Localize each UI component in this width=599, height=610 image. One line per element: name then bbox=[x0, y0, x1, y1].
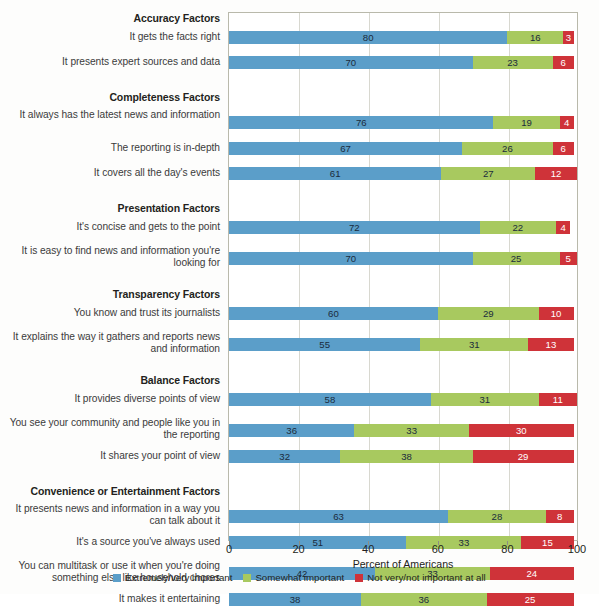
chart-row: It gets the facts right80163 bbox=[0, 30, 599, 55]
bar-segment: 19 bbox=[493, 116, 559, 129]
bar-segment: 6 bbox=[553, 142, 574, 155]
bar-segment: 29 bbox=[438, 307, 539, 320]
bar-segment: 16 bbox=[507, 31, 563, 44]
bar-segment: 33 bbox=[354, 424, 469, 437]
bar-segment: 12 bbox=[535, 167, 577, 180]
x-tick-label: 40 bbox=[362, 543, 374, 555]
bar-segment: 22 bbox=[480, 221, 557, 234]
bar-segment: 8 bbox=[546, 510, 574, 523]
bar-segment: 61 bbox=[229, 167, 441, 180]
legend-item[interactable]: Somewhat important bbox=[243, 572, 344, 583]
x-tick-label: 20 bbox=[292, 543, 304, 555]
bar-track: 553113 bbox=[229, 338, 577, 351]
row-label: It always has the latest news and inform… bbox=[2, 109, 220, 121]
row-label: It explains the way it gathers and repor… bbox=[2, 331, 220, 356]
group-header: Balance Factors bbox=[2, 374, 220, 386]
legend-item[interactable]: Extremely/very important bbox=[113, 572, 232, 583]
bar-track: 76194 bbox=[229, 116, 577, 129]
legend-item[interactable]: Not very/not important at all bbox=[355, 572, 485, 583]
row-label: The reporting is in-depth bbox=[2, 142, 220, 154]
bar-track: 363330 bbox=[229, 424, 577, 437]
chart-row: You see your community and people like y… bbox=[0, 417, 599, 449]
row-label: It shares your point of view bbox=[2, 450, 220, 462]
group-header: Completeness Factors bbox=[2, 91, 220, 103]
bar-track: 72224 bbox=[229, 221, 577, 234]
row-label: It covers all the day's events bbox=[2, 167, 220, 179]
bar-segment: 4 bbox=[560, 116, 574, 129]
bar-track: 70255 bbox=[229, 252, 577, 265]
row-label: You see your community and people like y… bbox=[2, 417, 220, 442]
bar-segment: 28 bbox=[448, 510, 545, 523]
bar-segment: 25 bbox=[487, 593, 574, 606]
chart-row: It presents expert sources and data70236 bbox=[0, 55, 599, 80]
bar-segment: 30 bbox=[469, 424, 573, 437]
chart-row: The reporting is in-depth67266 bbox=[0, 141, 599, 166]
bar-segment: 31 bbox=[431, 393, 539, 406]
bar-segment: 29 bbox=[473, 450, 574, 463]
bar-segment: 38 bbox=[229, 593, 361, 606]
x-tick-label: 100 bbox=[568, 543, 586, 555]
bar-segment: 70 bbox=[229, 252, 473, 265]
bar-segment: 6 bbox=[553, 56, 574, 69]
bar-track: 583111 bbox=[229, 393, 577, 406]
bar-track: 70236 bbox=[229, 56, 577, 69]
x-tick-label: 60 bbox=[432, 543, 444, 555]
group-header: Convenience or Entertainment Factors bbox=[2, 485, 220, 497]
row-label: It presents expert sources and data bbox=[2, 56, 220, 68]
legend-swatch bbox=[113, 574, 121, 582]
bar-segment: 67 bbox=[229, 142, 462, 155]
chart-row: It explains the way it gathers and repor… bbox=[0, 331, 599, 363]
chart-row: It presents news and information in a wa… bbox=[0, 503, 599, 535]
bar-segment: 58 bbox=[229, 393, 431, 406]
bar-segment: 60 bbox=[229, 307, 438, 320]
chart-row: You know and trust its journalists602910 bbox=[0, 306, 599, 331]
bar-track: 80163 bbox=[229, 31, 577, 44]
bar-segment: 32 bbox=[229, 450, 340, 463]
legend-swatch bbox=[355, 574, 363, 582]
bar-track: 383625 bbox=[229, 593, 577, 606]
chart-row: It's concise and gets to the point72224 bbox=[0, 220, 599, 245]
group-header: Presentation Factors bbox=[2, 202, 220, 214]
chart-legend: Extremely/very importantSomewhat importa… bbox=[0, 572, 599, 583]
bar-segment: 4 bbox=[556, 221, 570, 234]
bar-segment: 76 bbox=[229, 116, 493, 129]
bar-segment: 13 bbox=[528, 338, 573, 351]
bar-track: 612712 bbox=[229, 167, 577, 180]
row-label: It makes it entertaining bbox=[2, 593, 220, 605]
group-header: Transparency Factors bbox=[2, 288, 220, 300]
bar-segment: 63 bbox=[229, 510, 448, 523]
bar-track: 63288 bbox=[229, 510, 577, 523]
bar-segment: 80 bbox=[229, 31, 507, 44]
row-label: It provides diverse points of view bbox=[2, 393, 220, 405]
x-tick-label: 80 bbox=[501, 543, 513, 555]
bar-segment: 36 bbox=[229, 424, 354, 437]
chart-row: It always has the latest news and inform… bbox=[0, 109, 599, 141]
row-label: It presents news and information in a wa… bbox=[2, 503, 220, 528]
chart-row: It provides diverse points of view583111 bbox=[0, 392, 599, 417]
bar-segment: 26 bbox=[462, 142, 552, 155]
bar-segment: 5 bbox=[560, 252, 577, 265]
group-header: Accuracy Factors bbox=[2, 12, 220, 24]
bar-segment: 3 bbox=[563, 31, 573, 44]
legend-label: Not very/not important at all bbox=[367, 572, 485, 583]
x-tick-label: 0 bbox=[226, 543, 232, 555]
chart-row: It covers all the day's events612712 bbox=[0, 166, 599, 191]
row-label: You know and trust its journalists bbox=[2, 307, 220, 319]
bar-segment: 55 bbox=[229, 338, 420, 351]
bar-segment: 38 bbox=[340, 450, 472, 463]
bar-segment: 70 bbox=[229, 56, 473, 69]
bar-track: 602910 bbox=[229, 307, 577, 320]
bar-segment: 23 bbox=[473, 56, 553, 69]
bar-track: 323829 bbox=[229, 450, 577, 463]
legend-swatch bbox=[243, 574, 251, 582]
chart-row: It shares your point of view323829 bbox=[0, 449, 599, 474]
bar-segment: 25 bbox=[473, 252, 560, 265]
chart-row: It makes it entertaining383625 bbox=[0, 592, 599, 610]
row-label: It is easy to find news and information … bbox=[2, 245, 220, 270]
row-label: It's a source you've always used bbox=[2, 536, 220, 548]
bar-segment: 31 bbox=[420, 338, 528, 351]
legend-label: Extremely/very important bbox=[125, 572, 232, 583]
x-axis-title: Percent of Americans bbox=[228, 558, 578, 570]
bar-segment: 27 bbox=[441, 167, 535, 180]
